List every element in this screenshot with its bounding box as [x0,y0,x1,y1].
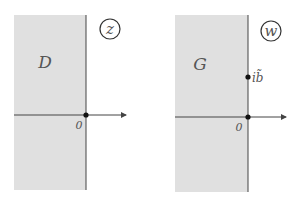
plane-label: z [105,20,114,38]
ib-point [245,74,250,79]
point-label: ib̃ [252,69,264,85]
region-label: D [37,52,52,72]
diagram: z D 0 w G ib̃ 0 [0,0,300,203]
origin-label: 0 [236,121,243,134]
plane-label: w [265,22,278,40]
origin-point [245,114,250,119]
region-label: G [193,54,207,74]
region-g [175,15,248,192]
origin-point [83,112,88,117]
z-plane-panel: z D 0 [14,15,126,190]
w-plane-panel: w G ib̃ 0 [175,15,286,192]
origin-label: 0 [76,119,83,132]
region-d [14,15,86,190]
